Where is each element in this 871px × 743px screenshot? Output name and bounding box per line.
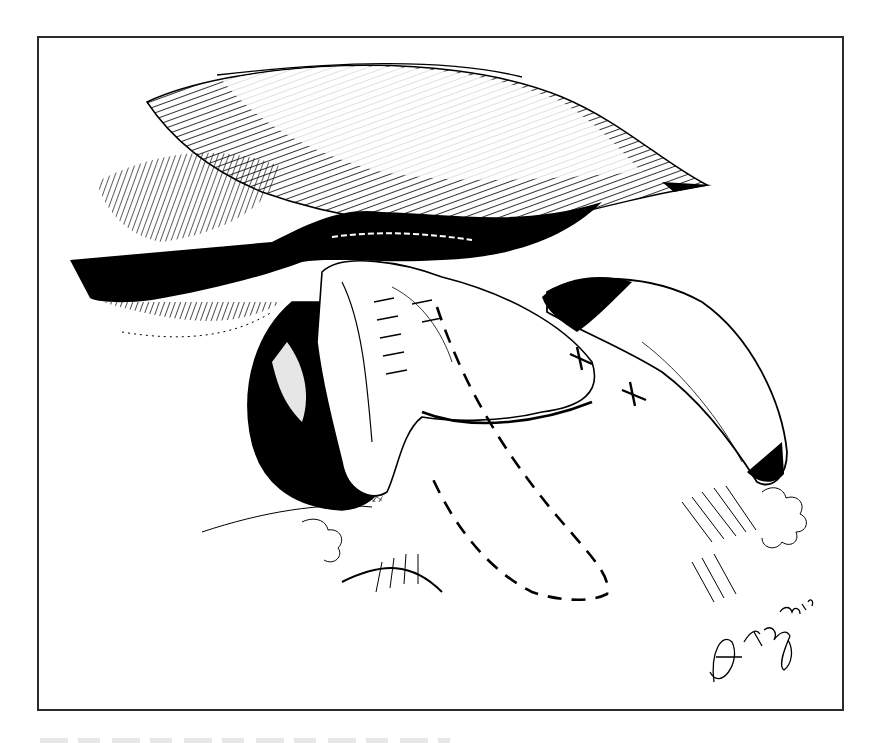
figure-caption-clipped-text (40, 738, 450, 743)
fatty-tissue (202, 488, 806, 592)
surgical-illustration (2, 2, 871, 743)
figure-frame (37, 36, 844, 711)
artist-signature (710, 600, 813, 682)
